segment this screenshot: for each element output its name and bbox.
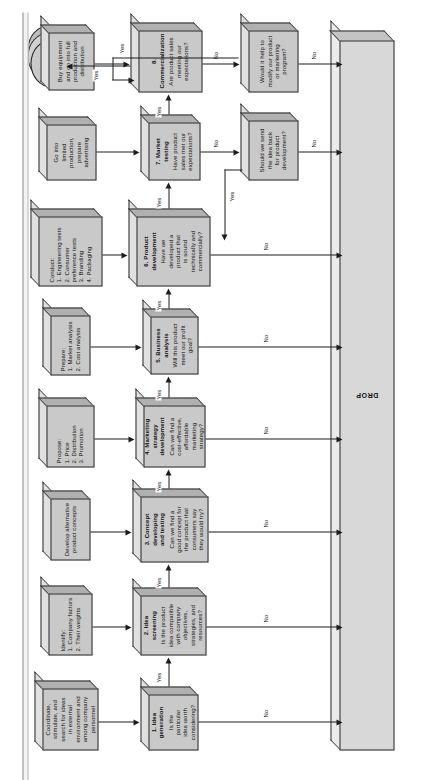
page-scan-edge <box>22 12 28 780</box>
stage-question-line: Is the product <box>159 599 166 651</box>
stage-question-line: considering? <box>189 698 196 746</box>
stage-title: Concept <box>143 513 149 538</box>
box-line: personnel <box>89 692 96 746</box>
edge-label-yes: Yes <box>155 671 161 683</box>
box-line: Coordinate, <box>44 692 51 746</box>
edge-label-no: No <box>212 138 218 148</box>
box-line: the idea back <box>266 124 273 176</box>
arrowhead <box>221 234 227 240</box>
arrowhead <box>165 564 171 570</box>
box-line: environment and <box>74 692 81 746</box>
arrowhead <box>336 437 342 443</box>
box-front-face: Develop alternative product concepts <box>50 498 90 560</box>
box-front-face: 1. Idea generation Is the particular ide… <box>148 694 198 750</box>
box-line: Go into <box>52 128 59 176</box>
flowchart-canvas: Lay future plans DROP Coordinate, stimul… <box>0 0 423 780</box>
box-line: preference tests <box>70 220 77 282</box>
arrowhead <box>165 469 171 475</box>
box-front-face: 5. Business analysis Will this product m… <box>150 316 198 374</box>
stage-number: 2. <box>142 629 148 634</box>
drop-label: DROP <box>355 392 378 399</box>
arrowhead <box>133 720 139 726</box>
stage-question-line: the product that <box>182 500 189 558</box>
edge-label-yes: Yes <box>155 105 161 117</box>
stage-question-line: particular <box>174 698 181 746</box>
drop-side-face <box>329 30 394 41</box>
arrowhead <box>336 720 342 726</box>
box-line: 4. Packaging <box>85 220 92 282</box>
edge-s8-no-to-f2 <box>202 63 234 64</box>
box-line: 2. Their weights <box>74 597 81 651</box>
arrowhead <box>128 78 134 84</box>
box-line: search for ideas <box>59 692 66 746</box>
input-box-in3: Develop alternative product concepts <box>42 490 90 560</box>
box-line: product concepts <box>70 502 77 556</box>
arrowhead <box>336 625 342 631</box>
stage-title: testing <box>162 141 168 161</box>
stage-number: 1. <box>150 726 156 731</box>
box-front-face: Buy equipment and go into full productio… <box>48 32 94 90</box>
edge-s2-no <box>206 626 338 627</box>
stage-box-s3: 3. Concept developing and testing Can we… <box>132 488 208 562</box>
box-line: 2. Cost analysis <box>74 319 81 371</box>
edge-in5-to-s5 <box>90 346 136 347</box>
box-line: or marketing <box>273 34 280 88</box>
box-heading: Prepare: <box>59 319 66 371</box>
edge-f2-yes-up <box>112 57 238 58</box>
input-box-in4: Propose: 1. Price 2. Distribution 3. Pro… <box>38 397 94 467</box>
box-line: production and <box>71 36 78 86</box>
box-front-face: Conduct: 1. Engineering tests 2. Consume… <box>38 216 102 286</box>
edge-f2-no-to-drop <box>298 63 338 64</box>
arrowhead <box>165 182 171 188</box>
stage-box-s7: 7. Market testing Have product sales met… <box>140 114 200 180</box>
stage-title: development <box>158 417 164 455</box>
input-box-in7: Go into limited production, prepare adve… <box>38 116 96 180</box>
edge-label-no: No <box>310 138 316 148</box>
input-box-in1: Coordinate, stimulate, and search for id… <box>34 680 98 750</box>
box-line: modify our product <box>266 34 273 88</box>
box-line: for product <box>273 124 280 176</box>
arrowhead <box>165 288 171 294</box>
edge-label-yes: Yes <box>155 388 161 400</box>
edge-in2-to-s2 <box>92 626 126 627</box>
stage-number: 3. <box>143 540 149 545</box>
stage-title: development <box>150 232 156 270</box>
edge-s5-no <box>198 346 338 347</box>
stage-number: 6. <box>142 261 148 266</box>
box-line: limited <box>60 128 67 176</box>
box-line: prepare <box>75 128 82 176</box>
edge-label-no: No <box>310 50 316 60</box>
arrowhead <box>165 657 171 663</box>
box-line: distribution <box>78 36 85 86</box>
box-front-face: 8. Commercialization Are product sales m… <box>138 30 202 92</box>
feedback-box-f2: Would it help to modify our product or m… <box>240 22 298 92</box>
stage-question-line: Have product <box>171 126 178 176</box>
stage-title: Business <box>154 328 160 355</box>
edge-label-yes: Yes <box>155 299 161 311</box>
arrowhead <box>125 530 131 536</box>
stage-question-line: Will this product <box>171 320 178 370</box>
stage-title: Market <box>154 138 160 158</box>
stage-question-line: resources? <box>196 599 203 651</box>
edge-f1-yes-v <box>224 169 242 170</box>
stage-title: screening <box>150 610 156 639</box>
drop-front-face: DROP <box>339 40 394 750</box>
box-line: 2. Consumer <box>63 220 70 282</box>
stage-title: Product <box>142 236 148 259</box>
box-heading: Identify: <box>59 597 66 651</box>
box-line: 1. Price <box>63 409 70 463</box>
edge-label-yes: Yes <box>228 190 234 202</box>
stage-question-line: with company <box>174 599 181 651</box>
stage-question-line: idea compatible <box>167 599 174 651</box>
stage-question-line: Can we find a <box>168 500 175 558</box>
box-front-face: Should we send the idea back for product… <box>248 120 298 180</box>
stage-number: 8. <box>150 58 156 63</box>
edge-label-yes: Yes <box>92 69 98 81</box>
box-front-face: 7. Market testing Have product sales met… <box>148 122 200 180</box>
input-box-in8: Buy equipment and go into full productio… <box>40 24 94 90</box>
arrowhead <box>336 345 342 351</box>
stage-question-line: technically and <box>189 220 196 282</box>
stage-question-line: Are product sales <box>167 34 174 88</box>
box-line: Buy equipment <box>56 36 63 86</box>
edge-s4-no <box>205 438 338 439</box>
